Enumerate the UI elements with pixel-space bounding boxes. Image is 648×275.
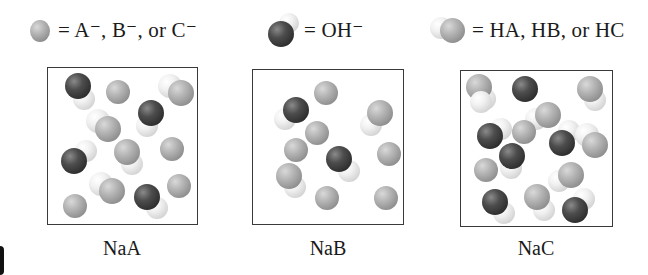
panel-label-nac: NaC	[476, 237, 596, 260]
anion-sphere	[524, 184, 550, 210]
anion-sphere	[558, 162, 584, 188]
anion-sphere	[440, 18, 465, 43]
oxygen-sphere	[268, 21, 294, 47]
oxygen-sphere	[134, 184, 160, 210]
anion-sphere	[305, 121, 329, 145]
anion-sphere	[577, 76, 603, 102]
anion-sphere	[99, 178, 125, 204]
legend-label-acid: = HA, HB, or HC	[472, 18, 625, 43]
legend-label-anion: = A⁻, B⁻, or C⁻	[58, 18, 197, 43]
acid-molecule-icon	[430, 15, 466, 45]
legend-item-hydroxide: = OH⁻	[264, 10, 364, 50]
anion-sphere	[95, 116, 121, 142]
oxygen-sphere	[499, 143, 525, 169]
oxygen-sphere	[482, 189, 508, 215]
gray-sphere	[30, 20, 50, 42]
oxygen-sphere	[549, 130, 575, 156]
panel-label-nab: NaB	[268, 237, 388, 260]
anion-sphere	[284, 138, 308, 162]
oxygen-sphere	[477, 123, 503, 149]
oxygen-sphere	[326, 146, 352, 172]
anion-sphere	[160, 137, 184, 161]
anion-sphere	[168, 80, 194, 106]
anion-sphere	[276, 163, 302, 189]
panel-label-naa: NaA	[62, 237, 182, 260]
legend-item-acid: = HA, HB, or HC	[430, 10, 625, 50]
oxygen-sphere	[65, 73, 91, 99]
anion-sphere	[367, 100, 393, 126]
anion-sphere	[167, 174, 191, 198]
anion-sphere	[63, 194, 87, 218]
anion-sphere-icon	[28, 18, 52, 42]
panel-naa	[47, 67, 198, 225]
anion-sphere	[582, 132, 608, 158]
anion-sphere	[535, 102, 561, 128]
oxygen-sphere	[138, 100, 164, 126]
anion-sphere	[377, 142, 401, 166]
hydroxide-molecule-icon	[264, 13, 298, 47]
anion-sphere	[315, 186, 339, 210]
oxygen-sphere	[283, 97, 309, 123]
anion-sphere	[374, 186, 398, 210]
anion-sphere	[314, 81, 338, 105]
legend-item-anion: = A⁻, B⁻, or C⁻	[28, 10, 197, 50]
anion-sphere	[512, 120, 536, 144]
anion-sphere	[474, 158, 498, 182]
oxygen-sphere	[61, 148, 87, 174]
anion-sphere	[106, 80, 130, 104]
panel-nac	[460, 70, 613, 227]
oxygen-sphere	[562, 197, 588, 223]
panel-nab	[252, 69, 404, 225]
hydrogen-sphere	[470, 91, 492, 113]
scan-edge-artifact	[0, 246, 4, 275]
anion-sphere	[114, 139, 140, 165]
oxygen-sphere	[512, 76, 538, 102]
legend-label-hydroxide: = OH⁻	[304, 18, 364, 43]
